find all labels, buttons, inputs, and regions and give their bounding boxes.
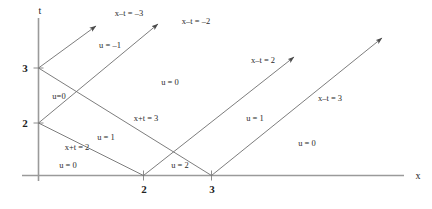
t-tick-label-2: 2 (22, 118, 28, 129)
region-label-u-1-right: u = 1 (246, 114, 264, 123)
region-label-u-2: u = 2 (171, 161, 189, 170)
characteristic-label-xminust-neg2: x–t = –2 (182, 17, 210, 26)
t-axis-label: t (39, 6, 42, 16)
region-label-u-1-left: u = 1 (97, 133, 115, 142)
x-axis-label: x (416, 171, 421, 181)
characteristic-label-xminust-3: x–t = 3 (318, 94, 342, 103)
diagram-canvas (0, 0, 432, 209)
region-label-u-0-bottom-left: u = 0 (59, 161, 77, 170)
t-tick-label-3: 3 (22, 63, 28, 74)
region-label-u-0-right: u = 0 (298, 139, 316, 148)
region-label-u-0-center: u = 0 (161, 78, 179, 87)
characteristic-line-xminust-neg3 (39, 26, 97, 68)
region-label-u-0-left: u=0 (52, 92, 65, 101)
region-label-u-neg1: u = –1 (99, 41, 121, 50)
characteristic-line-xminust-2 (144, 57, 295, 176)
spacetime-characteristics-diagram: t x 3 2 2 3 x–t = –3 x–t = –2 x–t = 2 x–… (0, 0, 432, 209)
characteristic-label-xminust-neg3: x–t = –3 (115, 9, 143, 18)
characteristic-line-xminust-3 (212, 38, 383, 176)
axes-group (22, 18, 404, 181)
characteristic-label-xminust-2: x–t = 2 (251, 56, 275, 65)
characteristic-line-xplust-2 (39, 123, 144, 176)
x-tick-label-2: 2 (141, 184, 147, 195)
characteristic-label-xplust-3: x+t = 3 (134, 114, 159, 123)
x-tick-label-3: 3 (209, 184, 215, 195)
characteristic-label-xplust-2: x+t = 2 (65, 143, 90, 152)
